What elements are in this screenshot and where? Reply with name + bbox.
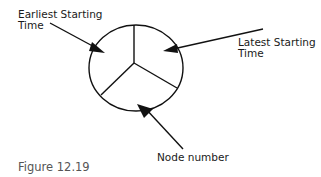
label-line: Time	[238, 48, 316, 59]
spoke-left	[101, 63, 134, 95]
label-latest-starting-time: Latest Starting Time	[238, 37, 316, 59]
figure-caption: Figure 12.19	[18, 160, 90, 174]
label-line: Time	[18, 20, 103, 31]
spoke-right	[134, 63, 177, 88]
label-node-number: Node number	[157, 152, 229, 163]
label-earliest-starting-time: Earliest Starting Time	[18, 9, 103, 31]
arrow-node	[145, 108, 183, 149]
arrowhead-latest-icon	[163, 44, 178, 53]
node-circle	[89, 25, 183, 111]
